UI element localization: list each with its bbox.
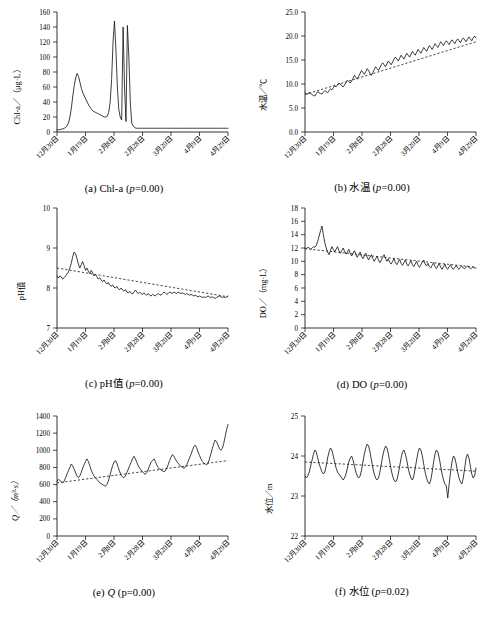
caption-d-prefix: (d) DO (: [337, 379, 374, 390]
x-tick-e-5: 4月9日: [182, 539, 203, 560]
x-tick-d-1: 1月19日: [314, 331, 337, 354]
x-tick-f-0: 12月30日: [283, 539, 309, 565]
y-tick-c-3: 10: [43, 205, 51, 213]
x-axis-a: 12月30日 1月19日 2月8日 2月28日 3月20日 4月9日 4月29日: [35, 132, 232, 160]
x-tick-a-0: 12月30日: [35, 135, 61, 161]
caption-c-prefix: (c) pH值 (: [85, 378, 129, 389]
x-tick-f-1: 1月19日: [314, 539, 337, 562]
x-axis-c: 12月30日 1月19日 2月8日 2月28日 3月20日 4月9日 4月29日: [35, 328, 232, 356]
x-tick-c-4: 3月20日: [151, 331, 174, 354]
chart-panel-a: Chl-a／（μg·L） 0 20 40 60: [0, 0, 248, 200]
x-tick-d-5: 4月9日: [430, 331, 451, 352]
x-tick-c-0: 12月30日: [35, 331, 61, 357]
y-tick-b-1: 5.0: [289, 105, 298, 113]
x-tick-c-2: 2月8日: [97, 331, 118, 352]
y-axis-c: pH值 7 8 9 10: [16, 205, 228, 333]
plot-svg-a: Chl-a／（μg·L） 0 20 40 60: [0, 0, 248, 172]
y-tick-d-0: 0: [294, 325, 298, 333]
plot-svg-b: 水温／℃ 0.0 5.0 10.0 15.0 20.0 25.0: [248, 0, 496, 172]
y-tick-c-2: 9: [46, 245, 50, 253]
y-tick-a-0: 0: [46, 129, 50, 137]
y-tick-d-5: 10: [291, 258, 299, 266]
y-tick-d-6: 12: [291, 245, 299, 253]
plot-area-b: 水温／℃ 0.0 5.0 10.0 15.0 20.0 25.0: [248, 0, 496, 172]
trend-line-c: [57, 268, 228, 297]
y-tick-a-8: 160: [39, 9, 50, 17]
x-axis-d: 12月30日 1月19日 2月8日 2月28日 3月20日 4月9日 4月29日: [283, 328, 480, 356]
y-tick-a-1: 20: [43, 114, 51, 122]
plot-area-e: Q／（m³·s） 0 200 400 600 800 100: [0, 404, 248, 576]
x-tick-e-1: 1月19日: [66, 539, 89, 562]
x-tick-d-3: 2月28日: [371, 331, 394, 354]
plot-area-c: pH值 7 8 9 10: [0, 196, 248, 368]
x-tick-f-2: 2月8日: [345, 539, 366, 560]
y-tick-b-5: 25.0: [285, 9, 298, 17]
y-axis-title-d: DO／（mg·L）: [259, 264, 268, 319]
y-tick-a-6: 120: [39, 39, 50, 47]
plot-area-d: DO／（mg·L） 0 2 4 6: [248, 196, 496, 368]
caption-e-italic: Q: [107, 587, 115, 598]
y-axis-title-f: 水位／m: [264, 483, 274, 514]
y-tick-f-0: 22: [291, 533, 299, 541]
y-axis-d: DO／（mg·L） 0 2 4 6: [259, 205, 476, 333]
x-tick-e-0: 12月30日: [35, 539, 61, 565]
x-tick-a-6: 4月29日: [208, 135, 231, 158]
x-tick-e-2: 2月8日: [97, 539, 118, 560]
y-tick-c-1: 8: [46, 285, 50, 293]
caption-b-suffix: =0.00): [381, 182, 409, 193]
y-tick-d-8: 16: [291, 218, 299, 226]
y-axis-title-e: Q／（m³·s）: [10, 477, 20, 521]
x-tick-d-0: 12月30日: [283, 331, 309, 357]
x-tick-b-6: 4月29日: [456, 135, 479, 158]
y-tick-d-4: 8: [294, 271, 298, 279]
caption-a-prefix: (a) Chl-a (: [85, 183, 130, 194]
x-tick-e-3: 2月28日: [123, 539, 146, 562]
caption-d: (d) DO (p=0.00): [248, 379, 496, 390]
x-tick-b-1: 1月19日: [314, 135, 337, 158]
x-axis-f: 12月30日 1月19日 2月8日 2月28日 3月20日 4月9日 4月29日: [283, 536, 480, 564]
y-axis-title-a: Chl-a／（μg·L）: [13, 65, 22, 124]
plot-area-a: Chl-a／（μg·L） 0 20 40 60: [0, 0, 248, 172]
x-tick-f-5: 4月9日: [430, 539, 451, 560]
y-axis-title-c: pH值: [16, 281, 26, 300]
data-series-c: [57, 252, 228, 298]
caption-e-suffix: (p=0.00): [115, 587, 155, 598]
y-tick-d-1: 2: [294, 311, 298, 319]
plot-svg-c: pH值 7 8 9 10: [0, 196, 248, 368]
y-tick-a-7: 140: [39, 24, 50, 32]
caption-a-suffix: =0.00): [135, 183, 163, 194]
chart-panel-b: 水温／℃ 0.0 5.0 10.0 15.0 20.0 25.0: [248, 0, 496, 200]
x-tick-c-5: 4月9日: [182, 331, 203, 352]
y-tick-e-2: 400: [39, 498, 50, 506]
x-tick-d-6: 4月29日: [456, 331, 479, 354]
y-tick-b-0: 0.0: [289, 129, 298, 137]
x-tick-f-4: 3月20日: [399, 539, 422, 562]
x-tick-a-2: 2月8日: [97, 135, 118, 156]
x-tick-b-4: 3月20日: [399, 135, 422, 158]
data-series-f: [305, 444, 476, 498]
y-tick-b-2: 10.0: [285, 81, 298, 89]
x-tick-f-6: 4月29日: [456, 539, 479, 562]
x-axis-b: 12月30日 1月19日 2月8日 2月28日 3月20日 4月9日 4月29日: [283, 132, 480, 160]
y-tick-e-7: 1400: [36, 413, 51, 421]
y-axis-f: 水位／m 22 23 24 25: [264, 413, 476, 541]
caption-c: (c) pH值 (p=0.00): [0, 375, 248, 390]
y-tick-d-2: 4: [294, 298, 298, 306]
caption-f-prefix: (f) 水位 (: [335, 586, 375, 597]
y-tick-e-3: 600: [39, 481, 50, 489]
y-tick-f-2: 24: [291, 453, 299, 461]
x-tick-b-2: 2月8日: [345, 135, 366, 156]
caption-a: (a) Chl-a (p=0.00): [0, 183, 248, 194]
x-tick-a-4: 3月20日: [151, 135, 174, 158]
caption-e: (e) Q (p=0.00): [0, 587, 248, 598]
x-axis-e: 12月30日 1月19日 2月8日 2月28日 3月20日 4月9日 4月29日: [35, 536, 232, 564]
x-tick-a-3: 2月28日: [123, 135, 146, 158]
caption-b-prefix: (b) 水温 (: [334, 182, 376, 193]
caption-d-suffix: =0.00): [379, 379, 407, 390]
x-tick-b-3: 2月28日: [371, 135, 394, 158]
data-series-a: [57, 21, 228, 130]
plot-svg-e: Q／（m³·s） 0 200 400 600 800 100: [0, 404, 248, 576]
y-tick-d-7: 14: [291, 231, 299, 239]
x-tick-d-4: 3月20日: [399, 331, 422, 354]
x-tick-f-3: 2月28日: [371, 539, 394, 562]
